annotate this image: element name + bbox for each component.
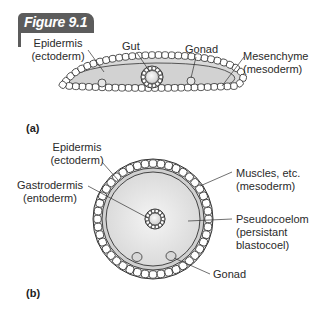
label-b-muscles: Muscles, etc. (mesoderm): [236, 167, 300, 193]
panel-b-gut-lumen: [149, 213, 161, 225]
panel-b-gonad-left: [132, 253, 142, 262]
label-a-mesenchyme: Mesenchyme (mesoderm): [243, 50, 308, 76]
label-a-gonad: Gonad: [185, 43, 218, 56]
label-a-epidermis: Epidermis (ectoderm): [25, 37, 91, 63]
label-b-gonad: Gonad: [213, 268, 246, 281]
label-b-pseudocoelom: Pseudocoelom (persistant blastocoel): [236, 213, 309, 252]
label-b-gastrodermis: Gastrodermis (entoderm): [15, 179, 85, 205]
label-b-epidermis: Epidermis (ectoderm): [44, 141, 110, 167]
panel-a-gonad-left: [98, 79, 106, 87]
panel-b-letter: (b): [26, 287, 40, 299]
panel-b-gonad-right: [166, 252, 176, 261]
panel-a-letter: (a): [26, 122, 39, 134]
panel-a-gonad-right: [187, 77, 195, 85]
label-a-gut: Gut: [122, 40, 140, 53]
panel-a-gut-lumen: [146, 71, 159, 84]
